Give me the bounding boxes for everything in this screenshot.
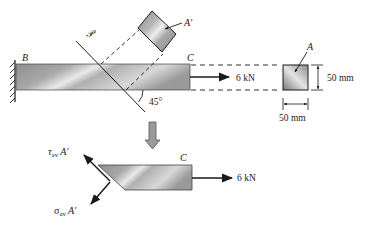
label-a: A xyxy=(306,41,314,52)
label-c-top: C xyxy=(187,52,194,63)
label-a-prime: A′ xyxy=(183,17,193,28)
bar xyxy=(16,64,190,90)
label-b: B xyxy=(22,52,28,63)
angle-arc xyxy=(139,90,144,102)
label-sigma-av-a-prime: σavA′ xyxy=(54,205,77,218)
label-force-top: 6 kN xyxy=(236,73,255,83)
fixed-support-wall xyxy=(10,60,15,103)
cross-section-a xyxy=(283,65,308,90)
label-angle-45: 45° xyxy=(149,97,163,107)
label-plane-p: 𝒫 xyxy=(86,28,96,39)
axial-bar-diagram: B 𝒫 45° A′ C 6 kN A 50 mm 50 mm xyxy=(0,0,368,227)
label-tau-av-a-prime: τavA′ xyxy=(48,146,69,159)
height-dimension xyxy=(311,65,323,90)
inclined-block-a-prime xyxy=(138,11,182,52)
free-body-segment xyxy=(98,165,192,190)
down-arrow-icon xyxy=(145,122,160,149)
label-force-bottom: 6 kN xyxy=(237,173,256,183)
label-c-bottom: C xyxy=(180,152,187,163)
width-dimension xyxy=(283,98,308,110)
label-width-50mm: 50 mm xyxy=(279,113,306,123)
normal-force-arrow xyxy=(91,182,110,204)
label-height-50mm: 50 mm xyxy=(327,73,354,83)
